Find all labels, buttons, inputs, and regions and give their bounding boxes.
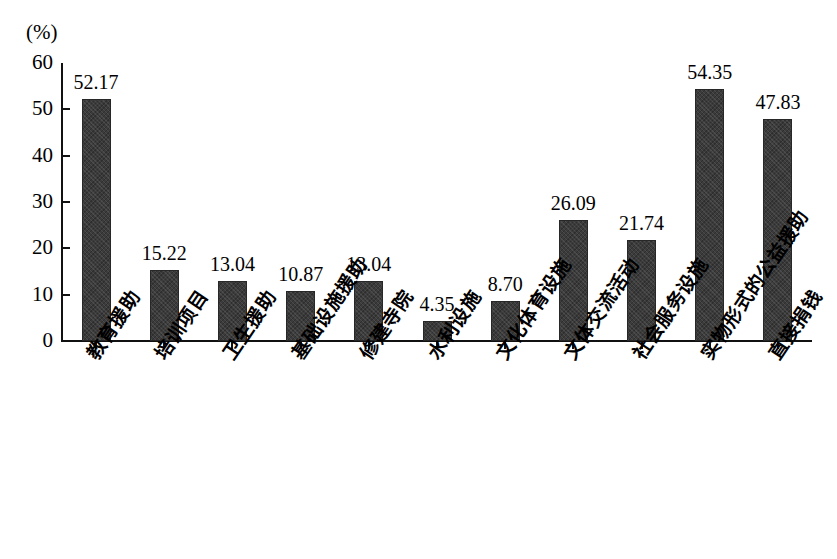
y-axis-tick (61, 108, 70, 110)
y-axis-tick (61, 155, 70, 157)
y-axis-unit-label: (%) (26, 22, 57, 43)
bar (82, 99, 111, 341)
y-axis-tick-label: 20 (13, 237, 53, 258)
bar-value-label: 54.35 (665, 62, 755, 82)
y-axis-tick-label: 0 (13, 330, 53, 351)
y-axis-tick-label: 60 (13, 52, 53, 73)
bar-value-label: 26.09 (528, 193, 618, 213)
y-axis-tick (61, 201, 70, 203)
bar (695, 89, 724, 341)
y-axis-tick (61, 247, 70, 249)
bar-value-label: 52.17 (51, 72, 141, 92)
y-axis-tick-label: 30 (13, 191, 53, 212)
bar-value-label: 13.04 (324, 254, 414, 274)
y-axis-tick (61, 294, 70, 296)
y-axis-tick-label: 40 (13, 145, 53, 166)
bar-value-label: 21.74 (597, 213, 687, 233)
bar-chart: (%) 0102030405060 52.1715.2213.0410.8713… (0, 0, 837, 559)
bar-value-label: 47.83 (733, 92, 823, 112)
y-axis-tick-label: 50 (13, 98, 53, 119)
y-axis-tick-label: 10 (13, 284, 53, 305)
